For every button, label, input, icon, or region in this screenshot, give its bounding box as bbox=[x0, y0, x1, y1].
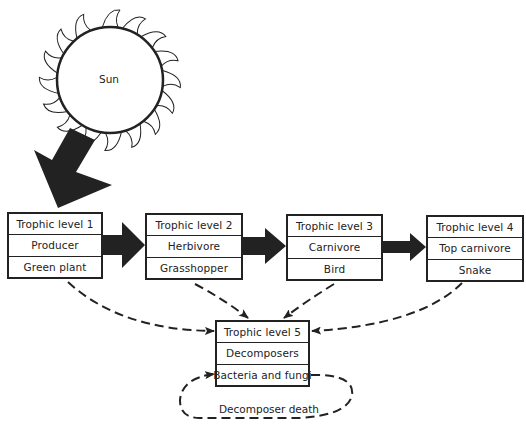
trophic-level-3-box: Trophic level 3 Carnivore Bird bbox=[286, 214, 383, 281]
trophic-organism: Snake bbox=[428, 259, 522, 280]
trophic-level-1-box: Trophic level 1 Producer Green plant bbox=[7, 212, 103, 279]
dashed-arrow-3-5 bbox=[284, 284, 334, 318]
trophic-role: Decomposers bbox=[217, 342, 308, 363]
sun-label: Sun bbox=[99, 73, 119, 85]
trophic-level-label: Trophic level 1 bbox=[9, 214, 101, 234]
dashed-arrow-4-5 bbox=[312, 283, 462, 331]
trophic-role: Top carnivore bbox=[428, 237, 522, 258]
sun-energy-arrow bbox=[34, 128, 112, 208]
trophic-organism: Bacteria and fungi bbox=[217, 364, 308, 385]
trophic-level-label: Trophic level 3 bbox=[288, 216, 381, 236]
energy-arrow-1-2 bbox=[102, 222, 145, 268]
trophic-organism: Grasshopper bbox=[147, 257, 241, 278]
trophic-organism: Green plant bbox=[9, 256, 101, 277]
trophic-role: Herbivore bbox=[147, 235, 241, 256]
decomposer-death-label: Decomposer death bbox=[219, 403, 319, 415]
dashed-arrow-1-5 bbox=[68, 282, 214, 331]
trophic-level-label: Trophic level 4 bbox=[428, 217, 522, 237]
trophic-level-4-box: Trophic level 4 Top carnivore Snake bbox=[426, 215, 524, 282]
trophic-role: Producer bbox=[9, 234, 101, 255]
trophic-level-label: Trophic level 5 bbox=[217, 322, 308, 342]
trophic-organism: Bird bbox=[288, 258, 381, 279]
energy-arrow-2-3 bbox=[243, 228, 286, 264]
trophic-level-5-box: Trophic level 5 Decomposers Bacteria and… bbox=[215, 320, 310, 387]
energy-arrow-3-4 bbox=[383, 233, 426, 261]
trophic-role: Carnivore bbox=[288, 236, 381, 257]
trophic-level-label: Trophic level 2 bbox=[147, 215, 241, 235]
dashed-arrow-2-5 bbox=[195, 284, 248, 318]
trophic-level-2-box: Trophic level 2 Herbivore Grasshopper bbox=[145, 213, 243, 280]
